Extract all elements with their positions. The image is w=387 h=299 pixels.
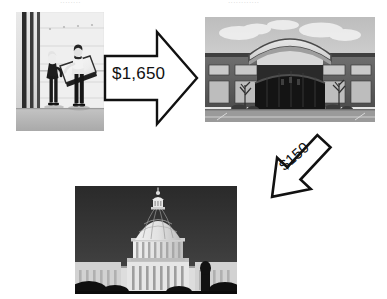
arrow-label-1650: $1,650 xyxy=(112,64,165,84)
capitol-photo xyxy=(75,186,237,294)
delivery-photo xyxy=(16,12,104,131)
retail-store-photo xyxy=(205,17,375,122)
top-text-fragment-left: ........ xyxy=(60,0,180,5)
diagram-canvas: ........ ............ xyxy=(0,0,387,299)
top-text-fragment-right: ............ xyxy=(228,0,348,5)
